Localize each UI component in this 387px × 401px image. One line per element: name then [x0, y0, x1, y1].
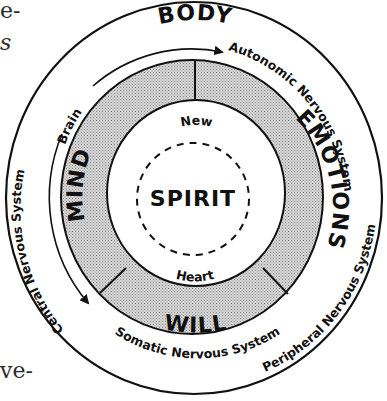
cns-label: Central Nervous System — [8, 168, 66, 338]
body-soul-spirit-diagram: BODY Autonomic Nervous System Peripheral… — [0, 0, 387, 401]
heart-label: Heart — [175, 267, 215, 284]
new-label: New — [179, 113, 214, 130]
body-label: BODY — [156, 0, 235, 29]
spirit-label: SPIRIT — [150, 186, 236, 211]
will-label: WILL — [163, 310, 229, 338]
